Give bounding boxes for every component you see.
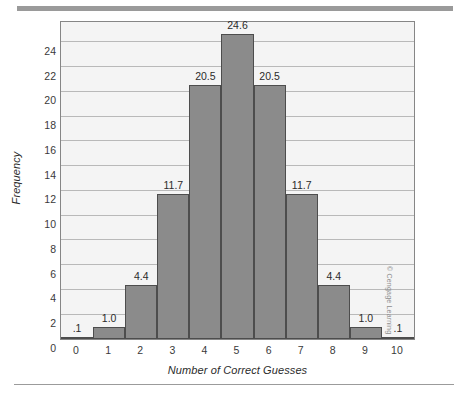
y-tick-label: 16 xyxy=(30,144,56,156)
plot-inner: .11.04.411.720.524.620.511.74.41.0.1 xyxy=(61,22,414,339)
x-axis-tick-labels: 012345678910 xyxy=(60,344,415,360)
x-axis-title: Number of Correct Guesses xyxy=(60,364,415,376)
x-tick-label: 3 xyxy=(169,344,175,356)
x-tick-label: 2 xyxy=(137,344,143,356)
y-tick-label: 4 xyxy=(30,292,56,304)
histogram-figure: Frequency 024681012141618202224 .11.04.4… xyxy=(0,14,470,380)
plot-area: .11.04.411.720.524.620.511.74.41.0.1 xyxy=(60,21,415,340)
y-tick-label: 18 xyxy=(30,119,56,131)
bars-layer: .11.04.411.720.524.620.511.74.41.0.1 xyxy=(61,22,414,339)
x-tick-label: 4 xyxy=(201,344,207,356)
x-tick-label: 7 xyxy=(298,344,304,356)
bar-value-label: 20.5 xyxy=(259,70,279,82)
x-tick-label: 0 xyxy=(73,344,79,356)
y-tick-label: 14 xyxy=(30,169,56,181)
bar-value-label: 1.0 xyxy=(359,312,374,324)
bar-value-label: 11.7 xyxy=(163,179,183,191)
bottom-divider-rule xyxy=(14,384,454,385)
bar xyxy=(189,85,221,339)
y-tick-label: 0 xyxy=(30,342,56,354)
y-tick-label: 24 xyxy=(30,45,56,57)
y-tick-label: 12 xyxy=(30,193,56,205)
bar xyxy=(286,194,318,339)
y-tick-label: 22 xyxy=(30,70,56,82)
y-tick-label: 8 xyxy=(30,243,56,255)
x-tick-label: 8 xyxy=(330,344,336,356)
y-tick-label: 6 xyxy=(30,268,56,280)
copyright-credit: © Cengage Learning xyxy=(386,266,393,395)
x-tick-label: 1 xyxy=(105,344,111,356)
bar xyxy=(318,285,350,339)
x-tick-label: 9 xyxy=(362,344,368,356)
bar xyxy=(93,327,125,339)
y-tick-label: 20 xyxy=(30,94,56,106)
x-tick-label: 6 xyxy=(266,344,272,356)
bar xyxy=(350,327,382,339)
bar-value-label: .1 xyxy=(394,322,403,334)
y-axis-tick-labels: 024681012141618202224 xyxy=(30,26,56,340)
bar-value-label: 4.4 xyxy=(134,270,149,282)
y-tick-label: 10 xyxy=(30,218,56,230)
bar-value-label: 20.5 xyxy=(195,70,215,82)
bar xyxy=(157,194,189,339)
bar xyxy=(221,34,253,339)
x-tick-label: 5 xyxy=(234,344,240,356)
y-axis-title: Frequency xyxy=(10,118,22,238)
top-divider-rule xyxy=(17,6,453,11)
bar xyxy=(61,337,93,340)
bar-value-label: 11.7 xyxy=(292,179,312,191)
bar-value-label: 24.6 xyxy=(227,19,247,31)
bar xyxy=(254,85,286,339)
bar xyxy=(125,285,157,339)
bar-value-label: 4.4 xyxy=(326,270,341,282)
bar-value-label: 1.0 xyxy=(102,312,117,324)
y-tick-label: 2 xyxy=(30,317,56,329)
bar-value-label: .1 xyxy=(73,322,82,334)
